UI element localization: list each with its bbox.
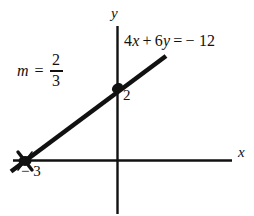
equation-label: 4x+6y=− 12 [124, 33, 215, 49]
slope-denominator: 3 [50, 73, 62, 90]
equation-equals-sign: = [170, 32, 185, 49]
equation-operator-plus: + [140, 32, 155, 49]
y-axis-label: y [111, 6, 118, 21]
equation-right-hand-side: − 12 [186, 32, 216, 49]
x-intercept-label: − 3 [21, 164, 41, 179]
equation-variable-x: x [132, 32, 139, 49]
x-axis-label: x [238, 145, 245, 160]
linear-equation-figure: y x 4x+6y=− 12 2 − 3 m = 2 3 [0, 0, 254, 216]
y-intercept-label: 2 [123, 88, 131, 103]
slope-numerator: 2 [50, 52, 62, 69]
equation-coefficient-1: 4 [124, 32, 132, 49]
slope-equals-sign: = [29, 63, 50, 79]
slope-annotation: m = 2 3 [17, 52, 63, 90]
equation-coefficient-2: 6 [155, 32, 163, 49]
slope-fraction: 2 3 [50, 52, 63, 90]
slope-variable: m [17, 63, 29, 79]
